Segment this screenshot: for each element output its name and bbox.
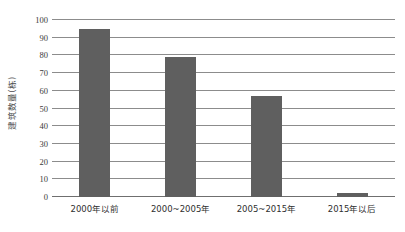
x-tick-label: 2000年以前 — [71, 202, 120, 214]
plot-area — [52, 20, 395, 197]
y-tick-label: 100 — [24, 16, 48, 25]
bar-chart: 建筑数量(栋) 0102030405060708090100 2000年以前20… — [0, 0, 405, 232]
y-tick-label: 30 — [24, 140, 48, 149]
gridline — [52, 19, 395, 20]
y-tick-label: 90 — [24, 33, 48, 42]
y-tick-label: 10 — [24, 175, 48, 184]
x-axis-tick-labels: 2000年以前2000~2005年2005~2015年2015年以后 — [52, 202, 395, 222]
bar[interactable] — [79, 29, 110, 197]
bar[interactable] — [165, 57, 196, 197]
y-axis-title-text: 建筑数量(栋) — [5, 76, 17, 129]
bar[interactable] — [251, 96, 282, 197]
y-tick-label: 0 — [24, 193, 48, 202]
y-tick-label: 70 — [24, 69, 48, 78]
x-tick-label: 2000~2005年 — [151, 202, 210, 214]
bar[interactable] — [337, 193, 368, 197]
y-tick-label: 50 — [24, 104, 48, 113]
x-tick-label: 2005~2015年 — [237, 202, 296, 214]
y-tick-label: 80 — [24, 51, 48, 60]
y-tick-label: 40 — [24, 122, 48, 131]
y-tick-label: 20 — [24, 157, 48, 166]
x-tick-label: 2015年以后 — [328, 202, 377, 214]
y-axis-title: 建筑数量(栋) — [0, 0, 22, 205]
y-tick-label: 60 — [24, 87, 48, 96]
